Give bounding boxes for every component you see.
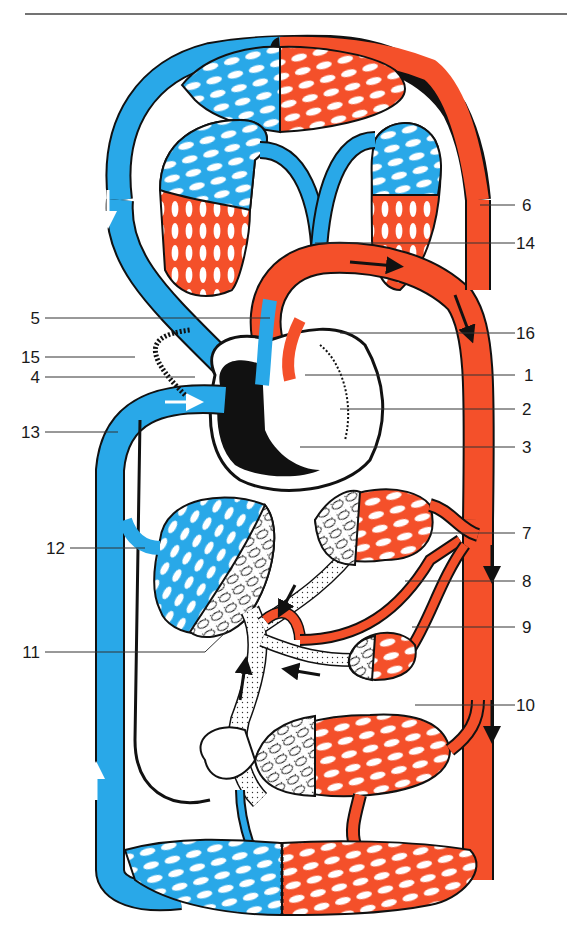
label-12: 12 [25, 540, 65, 557]
label-3: 3 [522, 439, 562, 456]
circulatory-diagram: 5 15 4 13 12 11 6 14 16 1 2 3 7 8 9 10 [0, 0, 567, 940]
label-9: 9 [522, 619, 562, 636]
label-2: 2 [522, 401, 562, 418]
inferior-vena-cava [96, 399, 225, 896]
label-16: 16 [516, 325, 556, 342]
label-11: 11 [0, 644, 40, 661]
label-4: 4 [0, 369, 40, 386]
label-10: 10 [516, 697, 556, 714]
label-14: 14 [516, 235, 556, 252]
label-8: 8 [522, 573, 562, 590]
intestine-capillary-bed [349, 633, 416, 680]
label-5: 5 [0, 310, 40, 327]
label-13: 13 [0, 424, 40, 441]
label-15: 15 [0, 349, 40, 366]
label-1: 1 [524, 367, 564, 384]
label-6: 6 [522, 197, 562, 214]
heart [210, 300, 382, 490]
label-7: 7 [522, 525, 562, 542]
